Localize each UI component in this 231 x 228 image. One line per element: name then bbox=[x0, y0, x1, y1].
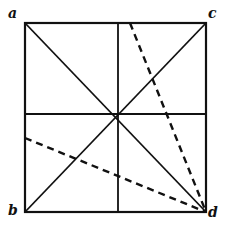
label-d: d bbox=[208, 205, 218, 219]
label-c: c bbox=[208, 6, 217, 20]
folding-diagram: a c b d bbox=[0, 0, 231, 228]
label-a: a bbox=[8, 6, 17, 20]
label-b: b bbox=[8, 203, 18, 217]
diagram-drawing bbox=[0, 0, 231, 228]
dashed-left-to-d-fold-line bbox=[25, 138, 206, 212]
dashed-top-to-d-fold-line bbox=[130, 23, 206, 212]
